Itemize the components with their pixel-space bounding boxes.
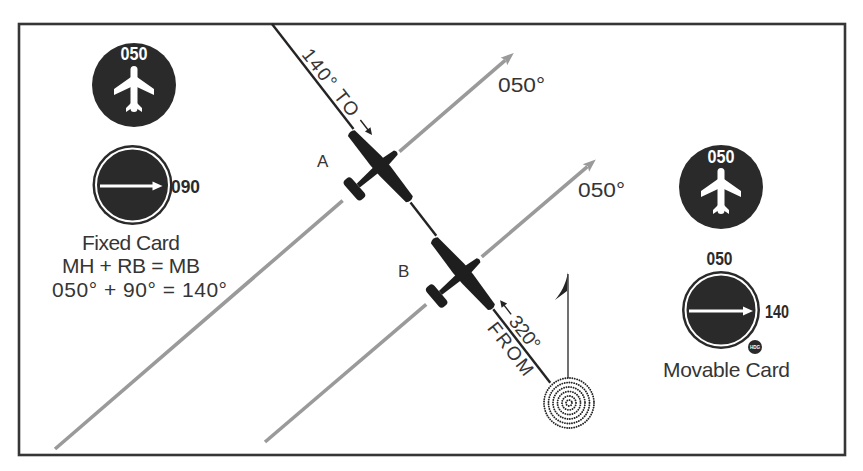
aircraft-b-label: B (398, 262, 409, 281)
aircraft-b-airplane-icon (403, 225, 509, 334)
arrow-left-icon (497, 298, 514, 317)
fixed-card-title: Fixed Card (82, 231, 180, 254)
right-adf-pointer-value: 140 (765, 302, 789, 322)
aircraft-a-label: A (317, 152, 329, 171)
course-line-segment (265, 304, 426, 442)
fixed-card-calculation: 050° + 90° = 140° (52, 278, 227, 301)
course-line-segment (482, 167, 588, 257)
arrow-right-icon (358, 118, 375, 137)
course-label-a: 050° (498, 74, 545, 96)
movable-card-title: Movable Card (663, 358, 790, 381)
left-heading-indicator: 050 (92, 43, 176, 127)
right-heading-indicator: 050 (679, 145, 763, 229)
right-adf-card-top-value: 050 (707, 249, 733, 269)
right-adf-indicator (682, 271, 760, 349)
fixed-card-formula: MH + RB = MB (62, 254, 200, 277)
course-label-b: 050° (578, 179, 625, 201)
to-bearing-label: 140° TO (298, 44, 364, 120)
left-adf-pointer-value: 090 (171, 177, 200, 197)
bearing-line-segment (411, 203, 437, 236)
north-arrow-icon (555, 272, 568, 378)
bearing-line: 140° TO 320° FROM (255, 11, 566, 395)
left-adf-indicator (93, 145, 173, 225)
bearing-line-segment (272, 24, 354, 129)
hdg-knob-label: HDG (750, 345, 761, 350)
diagram-stage: 050° 050° 140° TO 320° FROM A B (0, 0, 863, 471)
hdg-knob-icon: HDG (747, 339, 764, 356)
aircraft-a-airplane-icon (321, 117, 427, 226)
adf-bearing-diagram: 050° 050° 140° TO 320° FROM A B (0, 0, 863, 471)
course-line-segment (399, 60, 505, 151)
ndb-station-icon (544, 378, 594, 428)
heading-value: 050 (708, 147, 735, 167)
heading-value: 050 (121, 44, 148, 64)
